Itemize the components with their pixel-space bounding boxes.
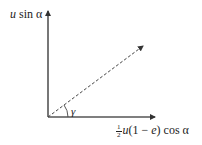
velocity-diagram: u sin α γ 1 2 u(1 − e) cos α — [0, 0, 202, 145]
fraction-denominator: 2 — [116, 132, 122, 139]
horizontal-component-label: 1 2 u(1 − e) cos α — [116, 124, 189, 139]
angle-arc — [64, 105, 68, 117]
angle-gamma-label: γ — [71, 106, 75, 117]
label-sin-alpha: sin α — [16, 7, 42, 21]
resultant-velocity-dashed-arrow — [48, 46, 143, 117]
label-paren-open: (1 − — [129, 123, 152, 137]
label-cos-alpha: ) cos α — [157, 123, 189, 137]
vertical-component-label: u sin α — [10, 8, 42, 20]
fraction-one-half: 1 2 — [116, 124, 122, 139]
